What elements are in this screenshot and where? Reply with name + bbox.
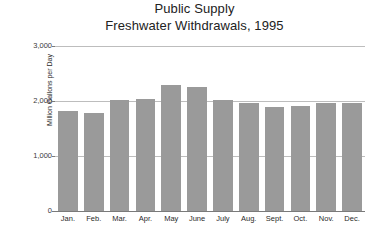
x-tick-label: Apr. [133, 214, 159, 224]
axis-baseline [55, 211, 365, 212]
x-tick-label: July [210, 214, 236, 224]
x-axis-labels: Jan.Feb.Mar.Apr.MayJuneJulyAug.Sept.Oct.… [55, 214, 365, 228]
y-tick-label: 1,000 [10, 152, 52, 160]
chart-title-line-1: Public Supply [12, 1, 377, 18]
bar [316, 103, 336, 211]
bar [265, 107, 285, 212]
bar [187, 87, 207, 211]
y-tick-label: 3,000 [10, 42, 52, 50]
x-tick-label: Jan. [55, 214, 81, 224]
bar [110, 100, 130, 211]
chart-title-line-2: Freshwater Withdrawals, 1995 [12, 18, 377, 35]
bar [342, 103, 362, 211]
y-axis-ticks: 01,0002,0003,000 [0, 46, 52, 212]
x-tick-label: Sept. [262, 214, 288, 224]
bar [136, 99, 156, 211]
x-tick-label: Feb. [81, 214, 107, 224]
bar [161, 85, 181, 212]
x-tick-label: Dec. [339, 214, 365, 224]
bar [213, 100, 233, 211]
page-title: Public Supply Freshwater Withdrawals, 19… [0, 1, 377, 34]
bar [84, 113, 104, 211]
plot-area [55, 46, 365, 211]
x-tick-label: May [158, 214, 184, 224]
x-tick-label: Mar. [107, 214, 133, 224]
bar [291, 106, 311, 211]
x-tick-label: Oct. [288, 214, 314, 224]
y-tick-label: 0 [10, 207, 52, 215]
bar-series [55, 46, 365, 211]
x-tick-label: June [184, 214, 210, 224]
x-tick-label: Nov. [313, 214, 339, 224]
bar [58, 111, 78, 211]
bar [239, 103, 259, 211]
x-tick-label: Aug. [236, 214, 262, 224]
y-tick-label: 2,000 [10, 97, 52, 105]
